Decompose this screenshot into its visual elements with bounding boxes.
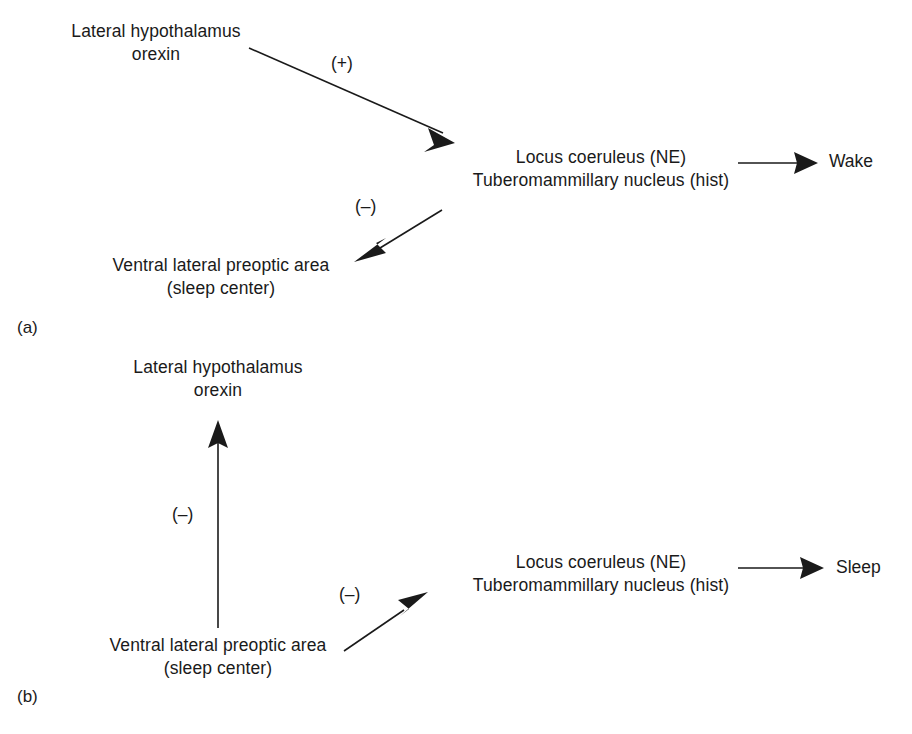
node-a-vlpo-line1: Ventral lateral preoptic area bbox=[81, 254, 361, 277]
node-b-vlpo: Ventral lateral preoptic area (sleep cen… bbox=[78, 634, 358, 680]
node-a-locus-coeruleus: Locus coeruleus (NE) Tuberomammillary nu… bbox=[451, 146, 751, 192]
node-b-lateral-hypothalamus-line1: Lateral hypothalamus bbox=[118, 356, 318, 379]
node-a-vlpo-line2: (sleep center) bbox=[81, 277, 361, 300]
node-a-locus-coeruleus-line2: Tuberomammillary nucleus (hist) bbox=[451, 169, 751, 192]
edge-b-lc-to-sleep-arrowhead bbox=[800, 557, 824, 579]
node-b-lateral-hypothalamus-line2: orexin bbox=[118, 379, 318, 402]
outcome-b-sleep: Sleep bbox=[836, 557, 881, 578]
node-b-vlpo-line2: (sleep center) bbox=[78, 657, 358, 680]
node-b-locus-coeruleus-line2: Tuberomammillary nucleus (hist) bbox=[451, 574, 751, 597]
sign-a-lh-to-lc-plus: (+) bbox=[331, 53, 353, 74]
node-b-locus-coeruleus: Locus coeruleus (NE) Tuberomammillary nu… bbox=[451, 551, 751, 597]
node-b-locus-coeruleus-line1: Locus coeruleus (NE) bbox=[451, 551, 751, 574]
panel-label-b: (b) bbox=[17, 687, 38, 707]
node-a-lateral-hypothalamus-line2: orexin bbox=[56, 43, 256, 66]
node-a-lateral-hypothalamus: Lateral hypothalamus orexin bbox=[56, 20, 256, 66]
edge-b-vlpo-to-lh bbox=[208, 420, 228, 628]
edge-a-lc-to-wake-arrowhead bbox=[794, 152, 818, 174]
edge-b-vlpo-to-lc-arrowhead bbox=[398, 592, 428, 616]
node-a-vlpo: Ventral lateral preoptic area (sleep cen… bbox=[81, 254, 361, 300]
edge-a-lc-to-vlpo bbox=[354, 210, 442, 262]
sign-b-vlpo-to-lc-minus: (–) bbox=[339, 584, 360, 605]
panel-label-a: (a) bbox=[17, 318, 38, 338]
node-a-locus-coeruleus-line1: Locus coeruleus (NE) bbox=[451, 146, 751, 169]
sign-a-lc-to-vlpo-minus: (–) bbox=[355, 196, 376, 217]
node-a-lateral-hypothalamus-line1: Lateral hypothalamus bbox=[56, 20, 256, 43]
node-b-vlpo-line1: Ventral lateral preoptic area bbox=[78, 634, 358, 657]
outcome-a-wake: Wake bbox=[829, 151, 873, 172]
figure-root: Lateral hypothalamus orexin (+) Locus co… bbox=[0, 0, 912, 734]
edge-a-lc-to-vlpo-shaft bbox=[380, 210, 442, 248]
sign-b-vlpo-to-lh-minus: (–) bbox=[172, 504, 193, 525]
node-b-lateral-hypothalamus: Lateral hypothalamus orexin bbox=[118, 356, 318, 402]
